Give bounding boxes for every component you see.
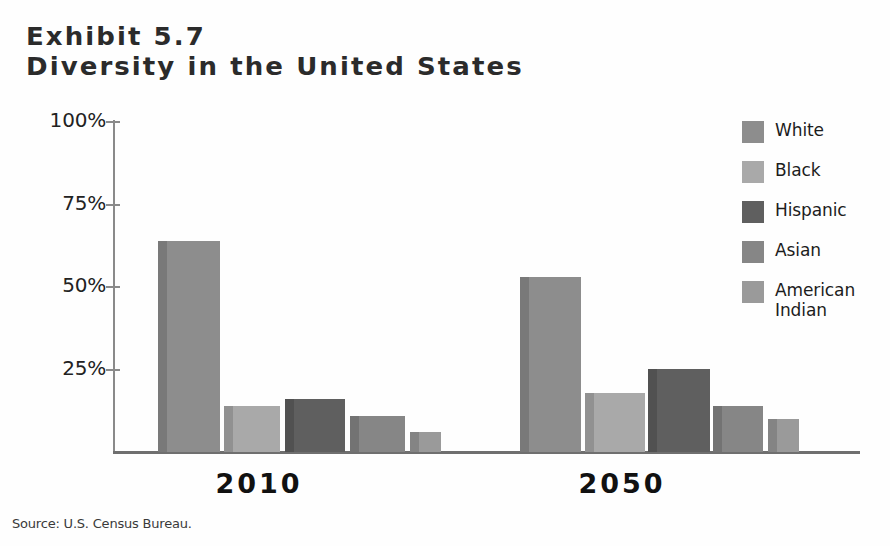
bar-shading [350, 416, 359, 452]
bar-shading [520, 277, 529, 452]
legend-item-black[interactable]: Black [742, 160, 890, 183]
bar-asian-2050 [713, 406, 763, 452]
legend-swatch-icon [742, 241, 764, 263]
legend-item-white[interactable]: White [742, 120, 890, 143]
exhibit-figure: Exhibit 5.7 Diversity in the United Stat… [0, 0, 890, 546]
legend-item-label: Asian [775, 240, 821, 260]
x-axis-label-2050: 2050 [542, 468, 702, 499]
x-axis-label-2010: 2010 [179, 468, 339, 499]
bar-white-2050 [520, 277, 581, 452]
bar-american-indian-2010 [410, 432, 441, 452]
bar-shading [768, 419, 777, 452]
legend-item-hispanic[interactable]: Hispanic [742, 200, 890, 223]
bar-shading [224, 406, 233, 452]
legend-swatch-icon [742, 281, 764, 303]
legend-swatch-icon [742, 161, 764, 183]
bar-hispanic-2010 [285, 399, 345, 452]
legend-item-asian[interactable]: Asian [742, 240, 890, 263]
bar-white-2010 [158, 241, 220, 452]
legend-item-label: American Indian [775, 280, 890, 320]
bar-shading [285, 399, 294, 452]
chart-legend: WhiteBlackHispanicAsianAmerican Indian [742, 120, 890, 337]
bar-shading [158, 241, 167, 452]
bar-asian-2010 [350, 416, 405, 452]
bar-hispanic-2050 [648, 369, 710, 452]
bar-black-2010 [224, 406, 280, 452]
bar-shading [648, 369, 657, 452]
legend-item-label: White [775, 120, 824, 140]
bar-shading [410, 432, 419, 452]
legend-swatch-icon [742, 121, 764, 143]
legend-item-label: Hispanic [775, 200, 847, 220]
source-note: Source: U.S. Census Bureau. [12, 516, 192, 531]
bar-shading [713, 406, 722, 452]
bar-black-2050 [585, 393, 645, 452]
legend-item-american-indian[interactable]: American Indian [742, 280, 890, 320]
legend-swatch-icon [742, 201, 764, 223]
bar-shading [585, 393, 594, 452]
bar-american-indian-2050 [768, 419, 799, 452]
legend-item-label: Black [775, 160, 821, 180]
